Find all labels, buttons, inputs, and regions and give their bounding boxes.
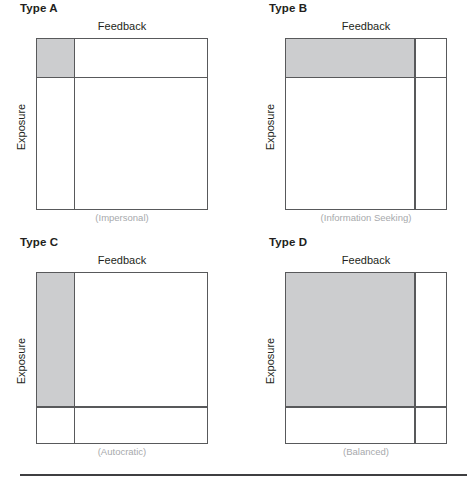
panel-type-a: Type A Feedback Exposure (Impersonal) xyxy=(0,2,236,236)
matrix-vertical-divider xyxy=(74,273,75,443)
axis-label-exposure: Exposure xyxy=(15,87,27,167)
matrix-cell-bottom-left xyxy=(37,406,74,443)
axis-label-exposure: Exposure xyxy=(264,87,276,167)
footer-divider xyxy=(20,474,467,476)
axis-label-exposure: Exposure xyxy=(15,321,27,401)
matrix-grid xyxy=(36,272,208,444)
matrix-cell-top-left xyxy=(37,273,74,406)
matrix-cell-top-right xyxy=(74,273,207,406)
matrix-cell-top-right xyxy=(414,39,446,77)
panel-title: Type A xyxy=(20,2,58,14)
matrix-cell-bottom-left xyxy=(286,77,414,209)
matrix-horizontal-divider xyxy=(286,77,446,78)
matrix-cell-top-left xyxy=(286,273,414,406)
matrix-vertical-divider xyxy=(414,39,415,209)
panel-note: (Impersonal) xyxy=(36,212,208,223)
panel-title: Type D xyxy=(269,236,307,248)
matrix-cell-top-right xyxy=(74,39,207,77)
axis-label-feedback: Feedback xyxy=(285,20,447,32)
matrix-cell-bottom-right xyxy=(414,77,446,209)
matrix-horizontal-divider xyxy=(286,406,446,407)
matrix-cell-top-left xyxy=(37,39,74,77)
matrix-vertical-divider xyxy=(414,273,415,443)
matrix-grid xyxy=(285,38,447,210)
axis-label-feedback: Feedback xyxy=(285,254,447,266)
matrix-cell-bottom-right xyxy=(74,77,207,209)
matrix-horizontal-divider xyxy=(37,77,207,78)
panel-type-d: Type D Feedback Exposure (Balanced) xyxy=(249,236,473,470)
panel-type-b: Type B Feedback Exposure (Information Se… xyxy=(249,2,473,236)
panel-title: Type C xyxy=(20,236,58,248)
matrix-grid xyxy=(36,38,208,210)
matrix-horizontal-divider xyxy=(37,406,207,407)
matrix-cell-top-right xyxy=(414,273,446,406)
matrix-vertical-divider xyxy=(74,39,75,209)
panel-note: (Information Seeking) xyxy=(275,212,457,223)
axis-label-feedback: Feedback xyxy=(36,20,208,32)
panel-note: (Autocratic) xyxy=(36,446,208,457)
axis-label-feedback: Feedback xyxy=(36,254,208,266)
matrix-cell-bottom-right xyxy=(414,406,446,443)
matrix-cell-bottom-left xyxy=(286,406,414,443)
matrix-grid xyxy=(285,272,447,444)
matrix-cell-bottom-left xyxy=(37,77,74,209)
panel-title: Type B xyxy=(269,2,307,14)
figure-canvas: Type A Feedback Exposure (Impersonal) Ty… xyxy=(0,0,473,488)
matrix-cell-bottom-right xyxy=(74,406,207,443)
matrix-cell-top-left xyxy=(286,39,414,77)
panel-type-c: Type C Feedback Exposure (Autocratic) xyxy=(0,236,236,470)
panel-note: (Balanced) xyxy=(285,446,447,457)
axis-label-exposure: Exposure xyxy=(264,321,276,401)
